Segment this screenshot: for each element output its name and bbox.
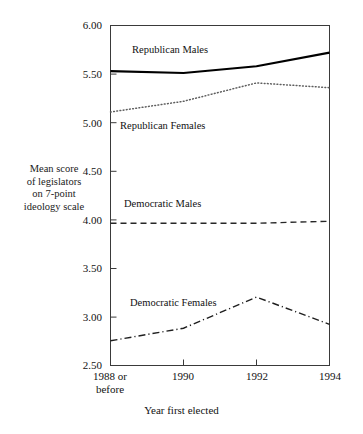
series-line-republican-females — [111, 83, 330, 112]
plot-frame — [111, 26, 330, 366]
chart-figure: Mean score of legislators on 7-point ide… — [0, 0, 363, 434]
series-label-republican-males: Republican Males — [132, 44, 208, 55]
series-line-republican-males — [111, 53, 330, 73]
x-tick-label-1988-line1: 1988 or — [93, 370, 127, 382]
x-tick-label-1988: 1988 or before — [70, 370, 150, 395]
series-label-republican-females: Republican Females — [120, 120, 205, 131]
chart-plot-area — [0, 0, 363, 434]
series-label-democratic-females: Democratic Females — [130, 297, 217, 308]
series-line-democratic-males — [111, 221, 330, 223]
x-axis-title: Year first elected — [0, 404, 363, 416]
y-tick-marks — [111, 74, 117, 317]
x-tick-label-1992: 1992 — [217, 370, 297, 383]
series-label-democratic-males: Democratic Males — [124, 198, 201, 209]
x-tick-marks — [184, 360, 257, 366]
x-tick-label-1994: 1994 — [290, 370, 363, 383]
x-tick-label-1988-line2: before — [70, 383, 150, 396]
x-tick-label-1990: 1990 — [143, 370, 223, 383]
